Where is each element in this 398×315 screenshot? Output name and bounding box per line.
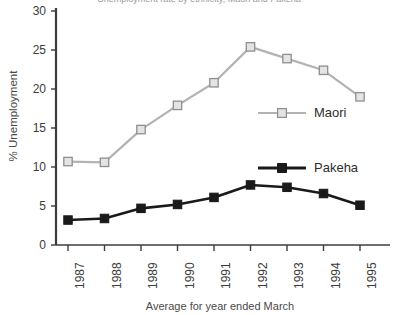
data-point-marker: [319, 189, 327, 197]
data-point-marker: [210, 79, 218, 87]
data-point-marker: [356, 201, 364, 209]
data-point-marker: [356, 93, 364, 101]
series-layer: [64, 43, 364, 225]
data-point-marker: [137, 125, 145, 133]
data-point-marker: [137, 204, 145, 212]
data-point-marker: [173, 200, 181, 208]
series-line: [68, 185, 360, 220]
data-point-marker: [64, 216, 72, 224]
plot-area: [0, 0, 398, 315]
data-point-marker: [246, 181, 254, 189]
legend-swatch-maori: [258, 109, 306, 118]
legend-label-maori: Maori: [314, 106, 347, 119]
data-point-marker: [173, 101, 181, 109]
data-point-marker: [64, 157, 72, 165]
series-pakeha: [64, 181, 364, 224]
data-point-marker: [210, 193, 218, 201]
legend-marker: [278, 164, 287, 173]
data-point-marker: [246, 43, 254, 51]
legend-marker: [278, 109, 287, 118]
data-point-marker: [283, 54, 291, 62]
data-point-marker: [283, 183, 291, 191]
data-point-marker: [100, 158, 108, 166]
unemployment-line-chart: Unemployment rate by ethnicity, Maori an…: [0, 0, 398, 315]
data-point-marker: [100, 214, 108, 222]
legend-layer: [258, 109, 306, 173]
data-point-marker: [319, 66, 327, 74]
legend-swatch-pakeha: [258, 164, 306, 173]
legend-label-pakeha: Pakeha: [314, 161, 358, 174]
